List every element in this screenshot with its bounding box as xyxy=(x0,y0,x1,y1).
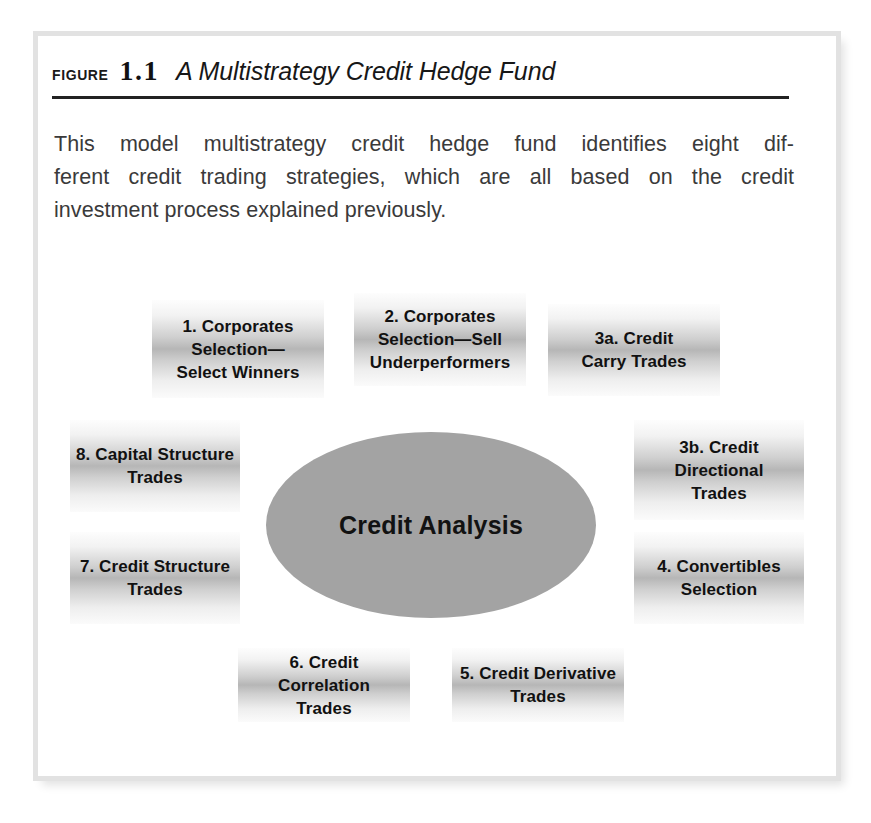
node-credit-carry-trades[interactable]: 3a. Credit Carry Trades xyxy=(548,304,720,396)
node-credit-structure-trades[interactable]: 7. Credit Structure Trades xyxy=(70,532,240,624)
node-label: 8. Capital Structure Trades xyxy=(76,443,234,489)
node-label: 1. Corporates Selection— Select Winners xyxy=(158,315,318,384)
node-credit-derivative-trades[interactable]: 5. Credit Derivative Trades xyxy=(452,648,624,722)
center-node-label: Credit Analysis xyxy=(339,511,523,540)
node-label: 2. Corporates Selection—Sell Underperfor… xyxy=(360,305,520,374)
node-label: 4. Convertibles Selection xyxy=(640,555,798,601)
node-convertibles-selection[interactable]: 4. Convertibles Selection xyxy=(634,532,804,624)
node-capital-structure-trades[interactable]: 8. Capital Structure Trades xyxy=(70,420,240,512)
node-label: 7. Credit Structure Trades xyxy=(76,555,234,601)
node-label: 5. Credit Derivative Trades xyxy=(458,662,618,708)
node-corporates-selection-sell-underperformers[interactable]: 2. Corporates Selection—Sell Underperfor… xyxy=(354,293,526,386)
figure-page: Figure 1.1 A Multistrategy Credit Hedge … xyxy=(0,0,871,823)
center-node-credit-analysis[interactable]: Credit Analysis xyxy=(266,432,596,618)
node-label: 6. Credit Correlation Trades xyxy=(244,651,404,720)
node-corporates-selection-select-winners[interactable]: 1. Corporates Selection— Select Winners xyxy=(152,300,324,398)
node-credit-directional-trades[interactable]: 3b. Credit Directional Trades xyxy=(634,420,804,520)
node-label: 3a. Credit Carry Trades xyxy=(554,327,714,373)
strategy-diagram: 1. Corporates Selection— Select Winners … xyxy=(0,0,871,823)
node-credit-correlation-trades[interactable]: 6. Credit Correlation Trades xyxy=(238,648,410,722)
node-label: 3b. Credit Directional Trades xyxy=(640,436,798,505)
